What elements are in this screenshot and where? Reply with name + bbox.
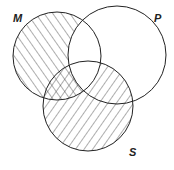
label-m: M: [13, 12, 23, 24]
label-p: P: [154, 12, 162, 24]
label-s: S: [129, 146, 137, 158]
venn-diagram: M P S: [0, 0, 174, 170]
venn-svg: M P S: [0, 0, 174, 170]
